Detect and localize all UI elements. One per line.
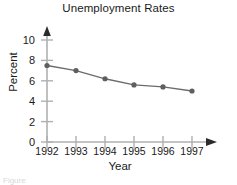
plot-area: 0 2 4 6 8 10 1992 1993 1994 1995 1996 19… <box>0 0 237 185</box>
line-chart-svg <box>0 0 237 185</box>
x-tick-label-1997: 1997 <box>175 145 209 157</box>
data-point-markers <box>44 63 194 94</box>
y-axis-arrow-icon <box>43 26 51 36</box>
data-point-1992 <box>44 63 49 68</box>
figure-unemployment-rates: Unemployment Rates <box>0 0 237 185</box>
data-line-unemployment <box>47 66 192 92</box>
data-point-1996 <box>160 84 165 89</box>
x-axis-label: Year <box>40 160 200 172</box>
y-axis-label: Percent <box>7 42 19 102</box>
data-point-1994 <box>102 76 107 81</box>
figure-caption-partial: Figure <box>3 176 123 185</box>
y-tick-label-2: 2 <box>13 116 35 128</box>
data-point-1995 <box>131 82 136 87</box>
data-point-1993 <box>73 68 78 73</box>
y-axis <box>43 26 51 142</box>
data-point-1997 <box>189 88 194 93</box>
